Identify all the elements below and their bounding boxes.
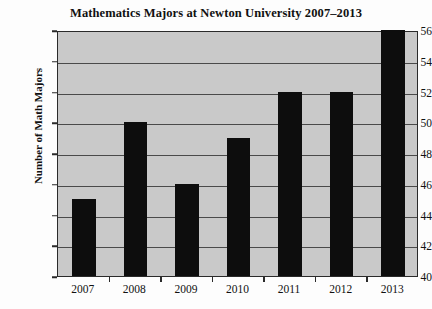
gridline bbox=[58, 94, 417, 95]
x-tick-label: 2007 bbox=[71, 283, 94, 295]
y-tick-mark bbox=[52, 92, 57, 94]
y-axis-title: Number of Math Majors bbox=[32, 26, 44, 226]
x-tick-label: 2009 bbox=[174, 283, 197, 295]
x-tick-mark bbox=[160, 277, 162, 282]
y-tick-mark bbox=[52, 276, 57, 278]
bar bbox=[175, 184, 198, 276]
y-tick-label: 46 bbox=[388, 179, 432, 191]
y-tick-mark bbox=[52, 123, 57, 125]
gridline bbox=[58, 124, 417, 125]
y-tick-label: 42 bbox=[388, 240, 432, 252]
x-tick-label: 2013 bbox=[381, 283, 404, 295]
gridline bbox=[58, 63, 417, 64]
plot-area bbox=[57, 31, 418, 277]
y-tick-label: 54 bbox=[388, 56, 432, 68]
x-tick-label: 2010 bbox=[226, 283, 249, 295]
y-tick-mark bbox=[52, 184, 57, 186]
y-tick-mark bbox=[52, 30, 57, 32]
y-tick-mark bbox=[52, 246, 57, 248]
bar bbox=[227, 138, 250, 276]
y-tick-mark bbox=[52, 153, 57, 155]
y-tick-label: 56 bbox=[388, 25, 432, 37]
x-tick-mark bbox=[366, 277, 368, 282]
x-tick-label: 2011 bbox=[278, 283, 301, 295]
y-tick-label: 40 bbox=[388, 271, 432, 283]
bar bbox=[278, 92, 301, 277]
y-tick-label: 44 bbox=[388, 210, 432, 222]
y-tick-label: 50 bbox=[388, 117, 432, 129]
x-tick-label: 2012 bbox=[329, 283, 352, 295]
bar bbox=[330, 92, 353, 277]
x-tick-mark bbox=[263, 277, 265, 282]
bar-chart-figure: Mathematics Majors at Newton University … bbox=[0, 0, 432, 309]
x-tick-mark bbox=[109, 277, 111, 282]
x-tick-label: 2008 bbox=[123, 283, 146, 295]
y-tick-mark bbox=[52, 215, 57, 217]
y-tick-mark bbox=[52, 61, 57, 63]
chart-title: Mathematics Majors at Newton University … bbox=[0, 6, 432, 21]
bar bbox=[124, 122, 147, 276]
y-tick-label: 52 bbox=[388, 87, 432, 99]
x-tick-mark bbox=[315, 277, 317, 282]
bar bbox=[72, 199, 95, 276]
x-tick-mark bbox=[212, 277, 214, 282]
y-tick-label: 48 bbox=[388, 148, 432, 160]
